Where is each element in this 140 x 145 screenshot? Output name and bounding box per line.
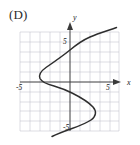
y-tick-label-positive-five: 5 — [63, 37, 67, 46]
x-axis-label: x — [126, 78, 131, 87]
grid-horizontal — [20, 32, 119, 131]
x-tick-label-negative-five: -5 — [16, 83, 22, 92]
grid-vertical — [20, 32, 119, 131]
y-axis-label: y — [72, 13, 77, 22]
y-axis — [67, 22, 73, 131]
choice-label: (D) — [9, 8, 28, 21]
x-tick-label-positive-five: 5 — [106, 83, 110, 92]
graph-figure: (D) — [0, 0, 140, 145]
